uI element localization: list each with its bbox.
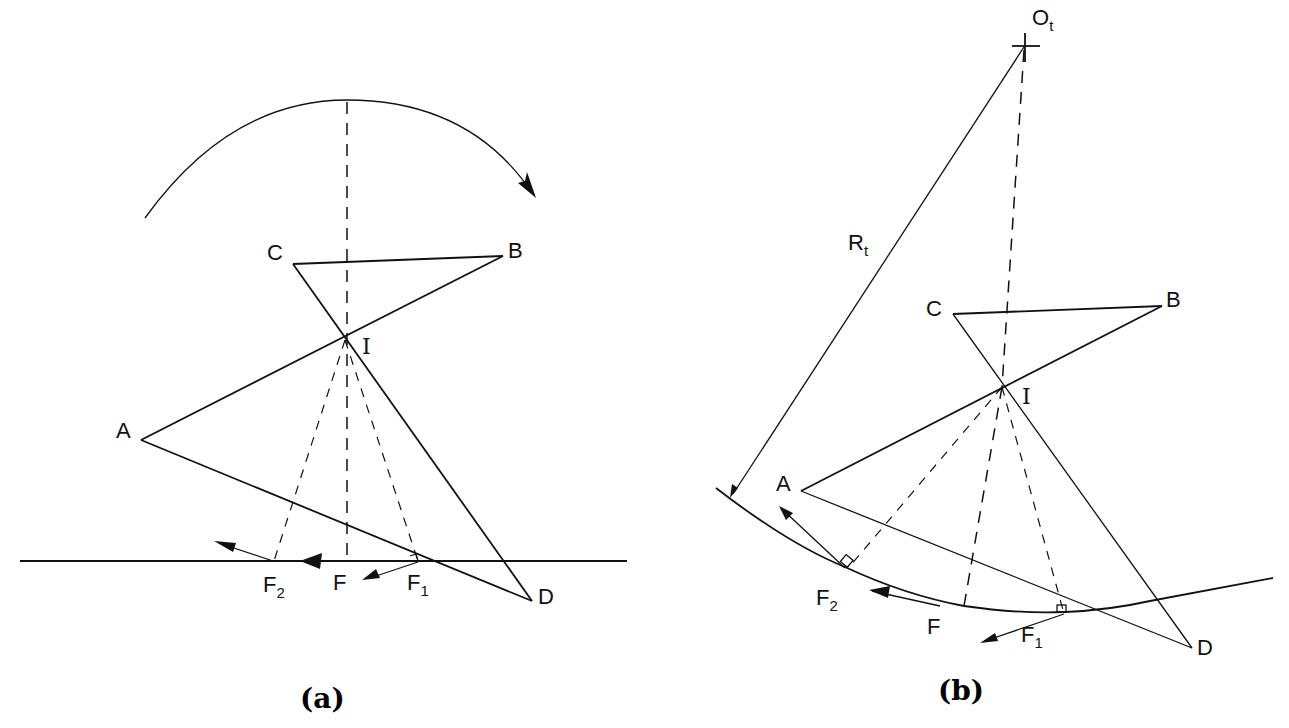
force-f1-arrowhead-icon xyxy=(362,569,380,580)
force-f-arrowhead-icon xyxy=(869,586,890,598)
point-label-b: B xyxy=(1166,287,1181,312)
force-f2-arrowhead-icon xyxy=(214,541,236,552)
linkage-c-d xyxy=(293,264,532,601)
dashed-i-f2 xyxy=(274,340,345,561)
point-label-i: I xyxy=(1022,384,1031,409)
force-label-f: F xyxy=(927,614,940,639)
dashed-i-f2 xyxy=(850,387,1002,566)
force-label-f2: F2 xyxy=(263,572,285,601)
panel-caption-b: (b) xyxy=(938,674,984,707)
force-f1-arrowhead-icon xyxy=(980,633,998,643)
point-label-c: C xyxy=(267,240,283,265)
radius-rt-arrowhead-icon xyxy=(730,484,738,498)
point-label-d: D xyxy=(1197,635,1213,660)
dashed-ot-i xyxy=(1002,50,1024,387)
force-label-f2: F2 xyxy=(816,585,838,614)
force-label-f1: F1 xyxy=(407,570,429,599)
dashed-i-f1 xyxy=(1002,387,1063,610)
point-label-ot: Ot xyxy=(1032,5,1054,34)
panel-caption-a: (a) xyxy=(300,682,345,715)
linkage-a-d xyxy=(801,491,1192,648)
panel-b: Ot Rt C B I A D F2 F F1 xyxy=(716,5,1273,707)
right-angle-mark-f1 xyxy=(410,554,418,561)
panel-a: C B I A D F2 F F1 (a) xyxy=(20,100,627,715)
rotation-arrowhead-icon xyxy=(518,172,536,198)
four-bar-linkage-figure: C B I A D F2 F F1 (a) Ot Rt xyxy=(0,0,1289,728)
force-label-f1: F1 xyxy=(1021,622,1043,651)
point-label-a: A xyxy=(116,418,131,443)
point-label-i: I xyxy=(362,334,371,359)
radius-label-rt: Rt xyxy=(848,230,869,259)
radius-rt-line xyxy=(733,47,1024,494)
dashed-i-f xyxy=(964,387,1002,606)
point-label-a: A xyxy=(776,471,791,496)
linkage-c-d xyxy=(953,314,1192,648)
force-f-arrowhead-icon xyxy=(300,553,322,569)
linkage-c-b xyxy=(953,306,1162,314)
linkage-c-b xyxy=(293,256,503,264)
curved-ground xyxy=(716,488,1273,612)
force-label-f: F xyxy=(333,570,346,595)
point-label-d: D xyxy=(538,584,554,609)
point-label-c: C xyxy=(926,296,942,321)
rotation-arc xyxy=(145,100,533,218)
linkage-b-a xyxy=(801,306,1162,491)
point-label-b: B xyxy=(508,238,523,263)
force-f2-arrow xyxy=(783,510,845,568)
